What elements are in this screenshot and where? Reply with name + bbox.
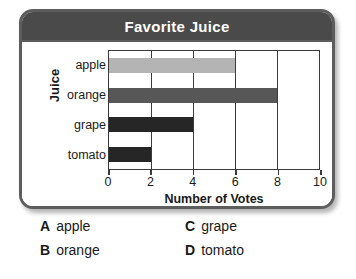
answer-options: AappleCgrapeBorangeDtomato xyxy=(40,218,330,258)
y-axis-tick-label: grape xyxy=(48,110,106,140)
option-b[interactable]: Borange xyxy=(40,242,185,258)
bar-orange xyxy=(109,88,277,103)
plot-area xyxy=(108,50,320,170)
x-tick-label: 0 xyxy=(105,175,112,189)
x-tick-label: 8 xyxy=(274,175,281,189)
bar-series xyxy=(109,51,319,169)
bar-tomato xyxy=(109,147,151,162)
x-axis-tick-labels: 0246810 xyxy=(108,175,320,191)
y-axis-tick-label: apple xyxy=(48,50,106,80)
x-tick-label: 2 xyxy=(147,175,154,189)
option-letter: C xyxy=(185,218,195,234)
option-a[interactable]: Aapple xyxy=(40,218,185,234)
option-text: tomato xyxy=(201,242,244,258)
bar-row xyxy=(109,110,319,140)
option-text: orange xyxy=(56,242,100,258)
bar-row xyxy=(109,51,319,81)
option-c[interactable]: Cgrape xyxy=(185,218,330,234)
option-letter: B xyxy=(40,242,50,258)
y-axis-tick-labels: appleorangegrapetomato xyxy=(48,50,106,170)
x-tick-label: 4 xyxy=(189,175,196,189)
option-text: grape xyxy=(201,218,237,234)
bar-row xyxy=(109,81,319,111)
bar-apple xyxy=(109,58,235,73)
x-tick-label: 10 xyxy=(313,175,327,189)
option-d[interactable]: Dtomato xyxy=(185,242,330,258)
card-title: Favorite Juice xyxy=(124,18,229,35)
y-axis-tick-label: tomato xyxy=(48,140,106,170)
option-letter: A xyxy=(40,218,50,234)
favorite-juice-card: Favorite Juice Juice appleorangegrapetom… xyxy=(19,9,335,209)
x-axis-title: Number of Votes xyxy=(108,192,320,206)
bar-chart: Juice appleorangegrapetomato 0246810 Num… xyxy=(22,42,332,208)
x-tick-label: 6 xyxy=(232,175,239,189)
option-letter: D xyxy=(185,242,195,258)
y-axis-tick-label: orange xyxy=(48,80,106,110)
card-title-bar: Favorite Juice xyxy=(22,12,332,42)
bar-grape xyxy=(109,117,193,132)
option-text: apple xyxy=(56,218,90,234)
bar-row xyxy=(109,140,319,170)
